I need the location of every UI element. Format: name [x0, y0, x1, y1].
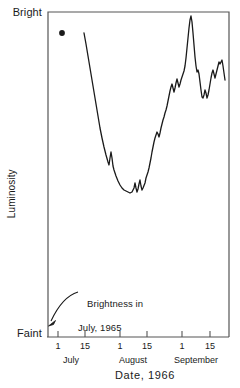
july-1965-marker-dot — [59, 30, 65, 36]
luminosity-chart-figure: Bright Faint Luminosity Date, 1966 11511… — [0, 0, 240, 388]
luminosity-line-series — [84, 16, 225, 193]
annotation-arrowhead-icon — [49, 321, 56, 327]
x-tick-label-4: 1 — [168, 341, 196, 351]
y-axis-title: Luminosity — [6, 158, 18, 230]
y-axis-min-label: Faint — [0, 327, 42, 340]
y-axis-max-label: Bright — [0, 6, 42, 19]
annotation-line-1: Brightness in — [87, 298, 143, 309]
annotation-arrow-line — [51, 292, 78, 321]
x-tick-label-5: 15 — [196, 341, 224, 351]
annotation-line-2: July, 1965 — [76, 322, 143, 334]
month-label-september: September — [166, 355, 226, 365]
x-axis-title: Date, 1966 — [95, 369, 195, 382]
annotation-text: Brightness in July, 1965 — [76, 286, 143, 358]
x-tick-label-0: 1 — [44, 341, 72, 351]
